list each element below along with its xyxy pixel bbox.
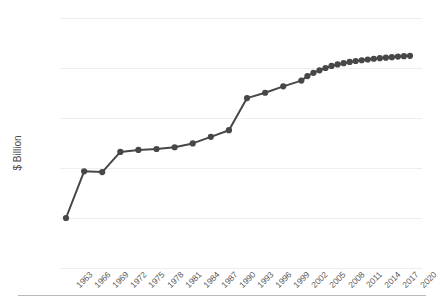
data-point	[304, 73, 310, 79]
data-point	[328, 63, 334, 69]
data-point	[117, 149, 123, 155]
series-line	[60, 18, 422, 268]
x-axis-tick-label: 1996	[273, 269, 293, 289]
data-point	[316, 67, 322, 73]
x-axis-tick-label: 1972	[128, 269, 148, 289]
data-point	[298, 77, 304, 83]
data-point	[407, 53, 413, 59]
x-axis-tick-label: 1999	[291, 269, 311, 289]
x-axis-tick-label: 2005	[328, 269, 348, 289]
x-axis-tick-label: 1981	[183, 269, 203, 289]
data-point	[99, 169, 105, 175]
data-point	[395, 54, 401, 60]
data-point	[280, 83, 286, 89]
data-point	[359, 57, 365, 63]
x-axis-tick-label: 2011	[364, 269, 384, 289]
x-axis-tick-label: 1978	[165, 269, 185, 289]
data-point	[322, 65, 328, 71]
data-point	[389, 54, 395, 60]
x-axis-tick-label: 1990	[237, 269, 257, 289]
x-axis-tick-label: 2002	[309, 269, 329, 289]
x-axis-tick-label: 2014	[382, 269, 402, 289]
line-chart: $ Billion 10,0001,0001001010 19631966196…	[0, 0, 440, 305]
data-point	[81, 168, 87, 174]
data-point	[63, 215, 69, 221]
data-point	[208, 134, 214, 140]
x-axis-tick-label: 1993	[255, 269, 275, 289]
x-axis-tick-label: 2017	[400, 269, 420, 289]
data-point	[377, 55, 383, 61]
data-point	[153, 146, 159, 152]
x-axis-tick-label: 1969	[110, 269, 130, 289]
data-point	[365, 56, 371, 62]
plot-area: 10,0001,0001001010	[60, 18, 422, 268]
x-axis-tick-label: 2020	[418, 269, 438, 289]
data-point	[334, 61, 340, 67]
data-point	[371, 56, 377, 62]
x-axis-tick-label: 1963	[74, 269, 94, 289]
data-point	[190, 140, 196, 146]
bottom-divider	[18, 295, 426, 296]
data-point	[172, 144, 178, 150]
x-axis-tick-label: 2008	[346, 269, 366, 289]
data-point	[244, 95, 250, 101]
data-point	[347, 59, 353, 65]
data-point	[353, 58, 359, 64]
x-axis-tick-label: 1987	[219, 269, 239, 289]
x-axis-tick-label: 1975	[147, 269, 167, 289]
data-point	[401, 53, 407, 59]
data-point	[341, 60, 347, 66]
x-axis-tick-label: 1966	[92, 269, 112, 289]
x-axis-tick-label: 1984	[201, 269, 221, 289]
data-point	[383, 55, 389, 61]
data-point	[135, 147, 141, 153]
x-axis-labels: 1963196619691972197519781981198419871990…	[60, 268, 422, 305]
data-point	[310, 70, 316, 76]
y-axis-title: $ Billion	[12, 108, 23, 198]
data-point	[262, 90, 268, 96]
data-point	[226, 127, 232, 133]
series-path	[66, 56, 410, 218]
